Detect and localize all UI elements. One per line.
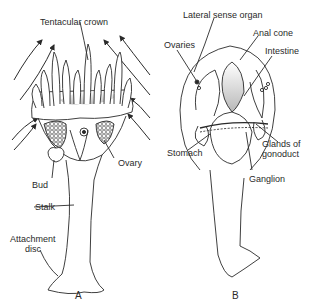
- label-tentacular-crown: Tentacular crown: [40, 17, 108, 27]
- label-ovary: Ovary: [118, 158, 142, 168]
- stalk-outline-b: [210, 170, 260, 277]
- stalk-outline: [48, 155, 104, 294]
- figure-a-letter: A: [75, 290, 82, 301]
- label-attachment-disc-line2: disc: [25, 244, 41, 254]
- label-ovaries: Ovaries: [164, 40, 195, 50]
- label-bud: Bud: [32, 180, 48, 190]
- label-stomach: Stomach: [167, 148, 203, 158]
- bud-outline: [48, 148, 64, 163]
- intestine-outline: [222, 62, 244, 112]
- label-glands-line2: gonoduct: [262, 149, 299, 159]
- label-glands-line1: Glands of: [262, 139, 301, 149]
- label-attachment-disc-line1: Attachment: [10, 234, 56, 244]
- label-anal-cone: Anal cone: [253, 28, 293, 38]
- figure-b-letter: B: [232, 290, 239, 301]
- label-intestine: Intestine: [265, 46, 299, 56]
- label-ganglion: Ganglion: [249, 174, 285, 184]
- label-stalk: Stalk: [35, 202, 55, 212]
- label-lateral-sense-organ: Lateral sense organ: [183, 10, 263, 20]
